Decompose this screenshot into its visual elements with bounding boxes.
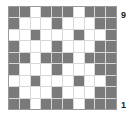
- board-cell[interactable]: [9, 53, 19, 63]
- board-cell[interactable]: [31, 76, 41, 86]
- board-cell[interactable]: [41, 64, 51, 74]
- board-cell[interactable]: [74, 7, 84, 17]
- board-cell[interactable]: [31, 7, 41, 17]
- board-cell[interactable]: [9, 7, 19, 17]
- board-cell[interactable]: [52, 64, 62, 74]
- board-cell[interactable]: [74, 76, 84, 86]
- board-cell[interactable]: [106, 64, 116, 74]
- board-cell[interactable]: [9, 30, 19, 40]
- board-cell[interactable]: [31, 99, 41, 109]
- board-cell[interactable]: [63, 87, 73, 97]
- board-cell[interactable]: [85, 7, 95, 17]
- board-cell[interactable]: [20, 64, 30, 74]
- board-cell[interactable]: [9, 87, 19, 97]
- board-cell[interactable]: [106, 76, 116, 86]
- board-cell[interactable]: [85, 99, 95, 109]
- row-label-bottom: 1: [121, 100, 126, 110]
- board-cell[interactable]: [63, 7, 73, 17]
- board-cell[interactable]: [20, 41, 30, 51]
- board-cell[interactable]: [31, 87, 41, 97]
- board-cell[interactable]: [74, 64, 84, 74]
- board-cell[interactable]: [95, 7, 105, 17]
- board-cell[interactable]: [9, 64, 19, 74]
- board-cell[interactable]: [85, 30, 95, 40]
- board-cell[interactable]: [41, 99, 51, 109]
- board-cell[interactable]: [74, 18, 84, 28]
- board-cell[interactable]: [63, 41, 73, 51]
- board-cell[interactable]: [106, 53, 116, 63]
- board-cell[interactable]: [85, 41, 95, 51]
- board-cell[interactable]: [41, 7, 51, 17]
- board-cell[interactable]: [74, 99, 84, 109]
- board-cell[interactable]: [20, 99, 30, 109]
- board-cell[interactable]: [95, 99, 105, 109]
- board-cell[interactable]: [41, 18, 51, 28]
- board-cell[interactable]: [106, 41, 116, 51]
- board-cell[interactable]: [85, 64, 95, 74]
- board-cell[interactable]: [85, 53, 95, 63]
- board-cell[interactable]: [85, 76, 95, 86]
- board-cell[interactable]: [106, 18, 116, 28]
- board-cell[interactable]: [106, 7, 116, 17]
- board-cell[interactable]: [20, 53, 30, 63]
- board-cell[interactable]: [95, 87, 105, 97]
- board-cell[interactable]: [31, 30, 41, 40]
- board-cell[interactable]: [20, 7, 30, 17]
- board-cell[interactable]: [52, 53, 62, 63]
- board-cell[interactable]: [106, 30, 116, 40]
- board-cell[interactable]: [52, 99, 62, 109]
- board-cell[interactable]: [52, 30, 62, 40]
- board-cell[interactable]: [31, 41, 41, 51]
- board-cell[interactable]: [41, 30, 51, 40]
- board-cell[interactable]: [63, 64, 73, 74]
- board-cell[interactable]: [95, 53, 105, 63]
- board-cell[interactable]: [85, 87, 95, 97]
- board-cell[interactable]: [41, 87, 51, 97]
- board-cell[interactable]: [9, 99, 19, 109]
- board-cell[interactable]: [20, 76, 30, 86]
- board-cell[interactable]: [63, 76, 73, 86]
- board-cell[interactable]: [20, 87, 30, 97]
- board-cell[interactable]: [41, 53, 51, 63]
- board-cell[interactable]: [106, 99, 116, 109]
- board-cell[interactable]: [95, 41, 105, 51]
- board-cell[interactable]: [52, 41, 62, 51]
- board-cell[interactable]: [20, 30, 30, 40]
- board-cell[interactable]: [85, 18, 95, 28]
- board-cell[interactable]: [41, 41, 51, 51]
- board-cell[interactable]: [52, 7, 62, 17]
- board-cell[interactable]: [74, 30, 84, 40]
- board-cell[interactable]: [95, 76, 105, 86]
- board-cell[interactable]: [63, 30, 73, 40]
- board-cell[interactable]: [74, 87, 84, 97]
- board-cell[interactable]: [9, 76, 19, 86]
- board-cell[interactable]: [31, 64, 41, 74]
- board-cell[interactable]: [95, 64, 105, 74]
- board-cell[interactable]: [20, 18, 30, 28]
- game-board: [8, 6, 117, 110]
- board-cell[interactable]: [63, 18, 73, 28]
- row-label-top: 9: [121, 10, 126, 20]
- board-cell[interactable]: [63, 99, 73, 109]
- board-cell[interactable]: [31, 18, 41, 28]
- board-cell[interactable]: [31, 53, 41, 63]
- board-cell[interactable]: [95, 18, 105, 28]
- board-cell[interactable]: [9, 18, 19, 28]
- board-cell[interactable]: [95, 30, 105, 40]
- board-cell[interactable]: [63, 53, 73, 63]
- board-cell[interactable]: [74, 41, 84, 51]
- board-cell[interactable]: [74, 53, 84, 63]
- board-cell[interactable]: [52, 87, 62, 97]
- board-cell[interactable]: [41, 76, 51, 86]
- board-cell[interactable]: [52, 76, 62, 86]
- board-cell[interactable]: [106, 87, 116, 97]
- board-cell[interactable]: [9, 41, 19, 51]
- board-cell[interactable]: [52, 18, 62, 28]
